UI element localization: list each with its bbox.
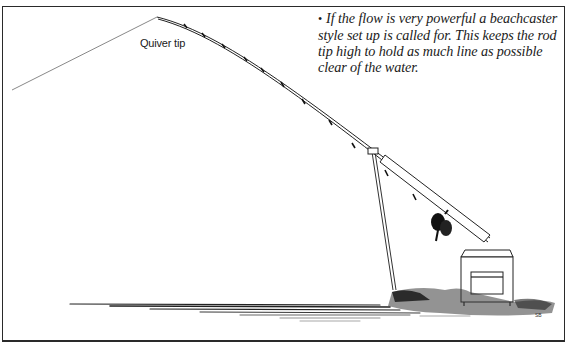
quiver-tip-label: Quiver tip	[140, 37, 185, 49]
artist-signature: SB	[535, 312, 542, 318]
fishing-line	[12, 17, 157, 90]
figure-caption: •If the flow is very powerful a beachcas…	[318, 10, 558, 75]
bullet-icon: •	[318, 12, 322, 26]
caption-text: If the flow is very powerful a beachcast…	[318, 10, 557, 75]
